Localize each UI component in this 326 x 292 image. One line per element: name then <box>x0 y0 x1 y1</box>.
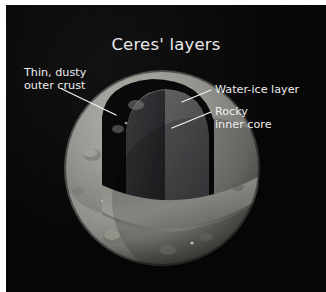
leader-line-core <box>172 112 211 128</box>
figure-panel: Ceres' layers Thin, dusty outer crust Wa… <box>0 0 326 292</box>
leader-lines <box>6 5 326 292</box>
leader-line-crust <box>62 89 116 115</box>
leader-line-ice <box>182 90 211 102</box>
diagram-canvas: Ceres' layers Thin, dusty outer crust Wa… <box>6 5 326 292</box>
